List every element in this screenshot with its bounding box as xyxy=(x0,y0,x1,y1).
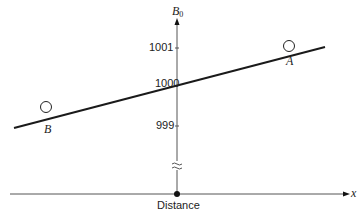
x-axis-caption: Distance xyxy=(157,199,200,211)
y-axis-label: B0 xyxy=(172,4,183,19)
x-axis-label: x xyxy=(351,186,356,201)
origin-dot xyxy=(174,191,180,197)
tick-label-1000: 1000 xyxy=(155,77,179,89)
point-a-label: A xyxy=(286,54,293,69)
x-axis-arrow-icon xyxy=(343,192,350,197)
point-a-circle xyxy=(284,41,295,52)
diagram-graphics xyxy=(0,0,362,216)
tick-label-999: 999 xyxy=(156,119,174,131)
y-axis-label-subscript: 0 xyxy=(179,10,183,19)
diagram-canvas: B0 1001 1000 999 A B Distance x xyxy=(0,0,362,216)
point-b-circle xyxy=(41,102,52,113)
tick-label-1001: 1001 xyxy=(149,41,173,53)
point-b-label: B xyxy=(44,122,51,137)
y-axis-arrow-icon xyxy=(175,18,180,25)
